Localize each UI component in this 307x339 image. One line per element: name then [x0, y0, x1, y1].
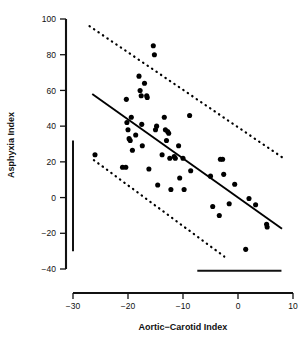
data-point: [210, 204, 215, 209]
x-axis-tick-label: −30: [66, 301, 81, 311]
data-point: [253, 202, 258, 207]
confidence-bands: [90, 26, 284, 256]
data-point: [232, 182, 237, 187]
data-point: [265, 224, 270, 229]
data-point: [146, 166, 151, 171]
regression-line-path: [92, 94, 282, 229]
data-point: [220, 157, 225, 162]
data-point: [124, 120, 129, 125]
data-point: [217, 213, 222, 218]
data-point: [151, 43, 156, 48]
data-point: [187, 113, 192, 118]
data-point: [130, 148, 135, 153]
data-point: [208, 174, 213, 179]
data-point: [164, 138, 169, 143]
data-point: [246, 196, 251, 201]
data-point: [142, 81, 147, 86]
data-point: [168, 187, 173, 192]
data-point: [221, 172, 226, 177]
data-point: [188, 168, 193, 173]
upper-confidence-band: [90, 26, 284, 158]
data-point: [173, 156, 178, 161]
x-axis-tick-label: 0: [236, 301, 241, 311]
x-axis-tick-label: −20: [121, 301, 136, 311]
data-point: [140, 143, 145, 148]
data-point: [227, 201, 232, 206]
data-point: [139, 93, 144, 98]
x-axis-tick-label: 10: [288, 301, 298, 311]
data-point: [177, 175, 182, 180]
data-point: [139, 122, 144, 127]
y-axis-tick-label: 60: [47, 86, 57, 96]
y-axis: −40−20020406080100: [42, 14, 66, 274]
data-point: [182, 187, 187, 192]
scatter-plot-figure: −40−20020406080100 −30−20−10010 Aortic−C…: [0, 0, 307, 339]
data-points: [92, 43, 269, 252]
y-axis-tick-label: 100: [42, 14, 56, 24]
y-axis-title: Asphyxia Index: [6, 112, 16, 178]
data-point: [136, 74, 141, 79]
data-point: [176, 143, 181, 148]
y-axis-tick-label: 40: [47, 121, 57, 131]
y-axis-tick-label: 0: [51, 193, 56, 203]
data-point: [128, 138, 133, 143]
y-axis-tick-label: 80: [47, 50, 57, 60]
x-axis-title: Aortic−Carotid Index: [139, 322, 228, 332]
data-point: [166, 131, 171, 136]
plot-canvas: −40−20020406080100 −30−20−10010 Aortic−C…: [0, 0, 307, 339]
data-point: [138, 88, 143, 93]
data-point: [155, 183, 160, 188]
data-point: [180, 156, 185, 161]
data-point: [124, 97, 129, 102]
data-point: [167, 156, 172, 161]
data-point: [243, 247, 248, 252]
x-axis: −30−20−10010: [66, 293, 298, 311]
x-axis-tick-label: −10: [176, 301, 191, 311]
data-point: [92, 152, 97, 157]
data-point: [162, 115, 167, 120]
data-point: [154, 124, 159, 129]
data-point: [129, 115, 134, 120]
data-point: [125, 127, 130, 132]
y-axis-tick-label: −20: [42, 228, 57, 238]
data-point: [133, 133, 138, 138]
y-axis-tick-label: 20: [47, 157, 57, 167]
y-axis-tick-label: −40: [42, 264, 57, 274]
data-point: [160, 152, 165, 157]
data-point: [123, 165, 128, 170]
regression-line: [92, 94, 282, 229]
data-point: [145, 95, 150, 100]
data-point: [152, 52, 157, 57]
